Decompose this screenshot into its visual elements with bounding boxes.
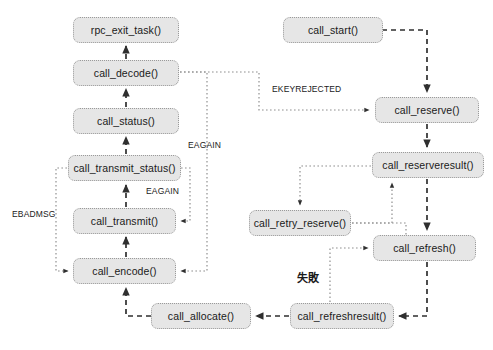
node-call-encode[interactable]: call_encode() bbox=[73, 258, 176, 284]
node-call-refreshresult[interactable]: call_refreshresult() bbox=[290, 303, 394, 329]
node-call-refresh[interactable]: call_refresh() bbox=[373, 235, 476, 261]
node-call-status[interactable]: call_status() bbox=[73, 108, 179, 134]
edge-call_refresh-to-call_refreshresult bbox=[399, 262, 427, 316]
node-label: call_encode() bbox=[92, 265, 156, 277]
edge-call_transmit_status-to-call_transmit bbox=[181, 168, 190, 221]
node-label: call_start() bbox=[308, 24, 358, 36]
node-call-transmit[interactable]: call_transmit() bbox=[73, 208, 176, 234]
node-label: call_refreshresult() bbox=[298, 310, 387, 322]
node-label: call_reserve() bbox=[395, 104, 460, 116]
node-call-transmit-status[interactable]: call_transmit_status() bbox=[68, 155, 181, 181]
edge-call_allocate-to-call_encode bbox=[126, 288, 151, 316]
edge-label-failure: 失敗 bbox=[297, 269, 319, 285]
node-call-reserve[interactable]: call_reserve() bbox=[375, 97, 479, 123]
node-call-decode[interactable]: call_decode() bbox=[73, 60, 179, 86]
diagram-canvas: rpc_exit_task() call_decode() call_statu… bbox=[0, 0, 493, 350]
node-label: call_retry_reserve() bbox=[254, 217, 346, 229]
node-label: call_reserveresult() bbox=[382, 159, 473, 171]
node-label: call_allocate() bbox=[168, 310, 234, 322]
node-label: call_transmit() bbox=[91, 215, 158, 227]
node-label: rpc_exit_task() bbox=[91, 24, 161, 36]
edge-label-eagain-transmit: EAGAIN bbox=[146, 186, 179, 196]
edge-label-eagain-decode: EAGAIN bbox=[188, 140, 221, 150]
node-label: call_decode() bbox=[94, 67, 158, 79]
edge-call_start-to-call_reserve bbox=[382, 30, 427, 92]
node-rpc-exit-task[interactable]: rpc_exit_task() bbox=[73, 17, 179, 43]
edge-label-ebadmsg: EBADMSG bbox=[12, 209, 56, 219]
node-label: call_status() bbox=[97, 115, 155, 127]
edge-label-ekeyrejected: EKEYREJECTED bbox=[272, 84, 341, 94]
edge-call_retry_reserve-to-call_reserveresult bbox=[352, 183, 392, 223]
node-label: call_refresh() bbox=[393, 242, 456, 254]
edge-call_reserveresult-to-call_retry_reserve bbox=[300, 166, 371, 205]
node-call-retry-reserve[interactable]: call_retry_reserve() bbox=[249, 210, 351, 236]
node-call-reserveresult[interactable]: call_reserveresult() bbox=[372, 152, 484, 178]
node-label: call_transmit_status() bbox=[74, 162, 176, 174]
edge-call_transmit_status-to-call_encode bbox=[56, 168, 68, 271]
edge-call_decode-to-call_encode bbox=[180, 72, 207, 271]
node-call-allocate[interactable]: call_allocate() bbox=[151, 303, 251, 329]
edge-call_refreshresult-to-call_refresh bbox=[330, 248, 368, 302]
node-call-start[interactable]: call_start() bbox=[283, 17, 383, 43]
